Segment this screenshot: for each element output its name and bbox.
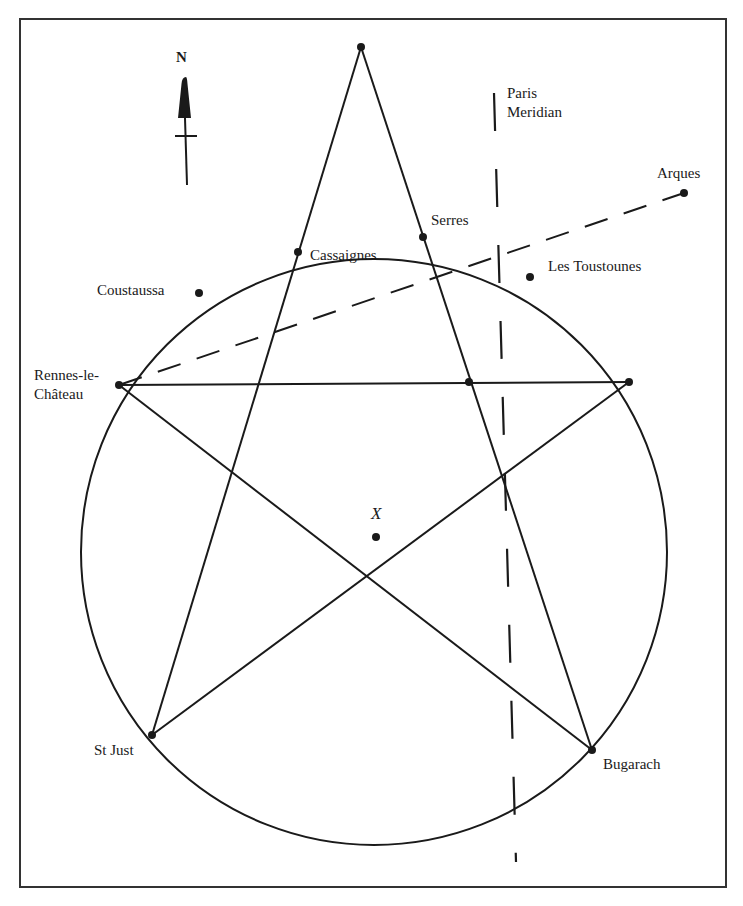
place-label-coustaussa: Coustaussa bbox=[97, 282, 165, 299]
meridian-label-line2: Meridian bbox=[507, 104, 562, 121]
marker-st-just bbox=[148, 731, 156, 739]
marker-apex bbox=[357, 43, 365, 51]
place-label-les-toustounes: Les Toustounes bbox=[548, 258, 641, 275]
meridian-label-line1: Paris bbox=[507, 85, 537, 102]
marker-arques bbox=[680, 189, 688, 197]
center-marker-label: X bbox=[371, 505, 381, 522]
marker-intersection bbox=[465, 378, 473, 386]
marker-coustaussa bbox=[195, 289, 203, 297]
place-label-cassaignes: Cassaignes bbox=[310, 247, 377, 264]
place-label-arques: Arques bbox=[657, 165, 700, 182]
marker-les-toustounes bbox=[526, 273, 534, 281]
paris-meridian-line bbox=[494, 93, 516, 862]
north-arrow-icon bbox=[175, 77, 197, 185]
place-label-serres: Serres bbox=[431, 212, 469, 229]
place-label-rennes-line2: Château bbox=[34, 386, 83, 403]
alignment-line-arques bbox=[119, 193, 684, 385]
marker-right-point bbox=[625, 378, 633, 386]
north-label: N bbox=[176, 49, 187, 66]
marker-serres bbox=[419, 233, 427, 241]
place-label-rennes-line1: Rennes-le- bbox=[34, 367, 99, 384]
marker-rennes-le-chateau bbox=[115, 381, 123, 389]
place-label-st-just: St Just bbox=[94, 742, 134, 759]
place-label-bugarach: Bugarach bbox=[603, 756, 660, 773]
pentagram bbox=[119, 47, 629, 750]
place-markers bbox=[115, 43, 688, 754]
enclosing-circle bbox=[81, 259, 667, 845]
marker-bugarach bbox=[588, 746, 596, 754]
marker-x bbox=[372, 533, 380, 541]
marker-cassaignes bbox=[294, 248, 302, 256]
